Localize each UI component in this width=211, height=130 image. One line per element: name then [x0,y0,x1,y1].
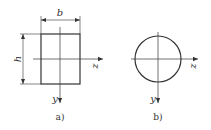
caption-a: a) [56,112,65,122]
panel-a-rectangle-section: b h y z a) [12,7,103,122]
panel-b-circle-section: y z b) [131,32,198,122]
z-axis-label: z [89,63,100,70]
y-axis-label: y [149,93,156,104]
caption-b: b) [153,112,162,122]
cross-section-diagram: b h y z a) y z b) [0,0,211,130]
z-axis-label: z [187,63,198,70]
b-label: b [57,7,63,18]
h-label: h [12,56,23,62]
y-axis-label: y [51,93,58,104]
